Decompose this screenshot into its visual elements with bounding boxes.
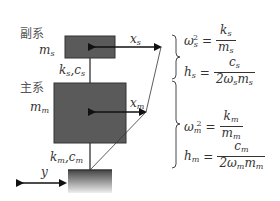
equation-h-secondary: hs = cs 2ωsms <box>184 56 255 89</box>
primary-mass-label: mm <box>30 101 49 115</box>
secondary-system-title: 副系 <box>20 28 44 40</box>
y-label: y <box>41 166 48 178</box>
equation-h-primary: hm = cm 2ωmmm <box>184 140 265 173</box>
xs-label: xs <box>130 33 141 47</box>
primary-system-title: 主系 <box>20 82 44 94</box>
ground-base <box>68 170 112 193</box>
secondary-spring-damper-label: ks,cs <box>59 64 85 78</box>
equation-omega-secondary: ωs2 = ks ms <box>184 24 236 57</box>
brace-secondary <box>172 35 180 79</box>
xm-label: xm <box>130 97 144 111</box>
brace-primary <box>172 81 180 168</box>
secondary-mass-label: ms <box>39 44 55 58</box>
primary-mass-block <box>54 83 126 143</box>
primary-spring-damper-label: km,cm <box>50 151 83 165</box>
